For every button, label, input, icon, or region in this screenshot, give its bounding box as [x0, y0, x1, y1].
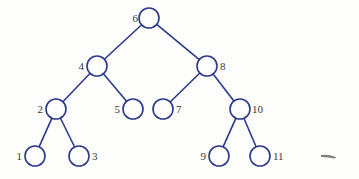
node-circle — [46, 99, 66, 119]
node-label: 3 — [92, 150, 98, 162]
node-circle — [87, 56, 107, 76]
tree-node-5: 5 — [115, 99, 144, 119]
tree-edge-6-4 — [104, 25, 141, 59]
node-circle — [153, 99, 173, 119]
node-circle — [197, 56, 217, 76]
node-label: 7 — [176, 103, 182, 115]
node-label: 11 — [273, 150, 284, 162]
tree-node-4: 4 — [79, 56, 108, 76]
node-label: 9 — [201, 150, 207, 162]
node-circle — [250, 146, 270, 166]
tree-node-8: 8 — [197, 56, 226, 76]
tree-node-9: 9 — [201, 146, 230, 166]
tree-edge-2-3 — [60, 118, 74, 147]
ink-smudge-mark — [321, 155, 336, 159]
tree-edge-8-10 — [213, 74, 234, 101]
node-circle — [25, 146, 45, 166]
node-label: 2 — [38, 103, 44, 115]
node-label: 1 — [17, 150, 23, 162]
tree-edge-6-8 — [157, 24, 200, 59]
tree-node-10: 10 — [230, 99, 264, 119]
node-circle — [230, 99, 250, 119]
tree-edge-10-9 — [223, 118, 236, 147]
node-circle — [123, 99, 143, 119]
tree-edge-4-5 — [103, 74, 126, 102]
tree-node-7: 7 — [153, 99, 182, 119]
tree-node-1: 1 — [17, 146, 46, 166]
node-circle — [209, 146, 229, 166]
node-label: 4 — [79, 60, 85, 72]
tree-edge-8-7 — [170, 73, 200, 102]
tree-edge-2-1 — [39, 118, 52, 147]
tree-node-3: 3 — [69, 146, 98, 166]
node-circle — [139, 8, 159, 28]
node-circle — [69, 146, 89, 166]
tree-node-11: 11 — [250, 146, 284, 166]
node-label: 5 — [115, 103, 121, 115]
tree-node-2: 2 — [38, 99, 67, 119]
node-label: 6 — [133, 12, 139, 24]
node-label: 10 — [252, 103, 264, 115]
tree-edge-4-2 — [63, 73, 90, 102]
binary-tree-diagram: 6482571013911 — [0, 0, 359, 179]
tree-edge-10-11 — [244, 118, 256, 147]
tree-node-6: 6 — [133, 8, 160, 28]
tree-nodes: 6482571013911 — [17, 8, 284, 166]
node-label: 8 — [220, 60, 226, 72]
tree-edges — [39, 24, 256, 147]
